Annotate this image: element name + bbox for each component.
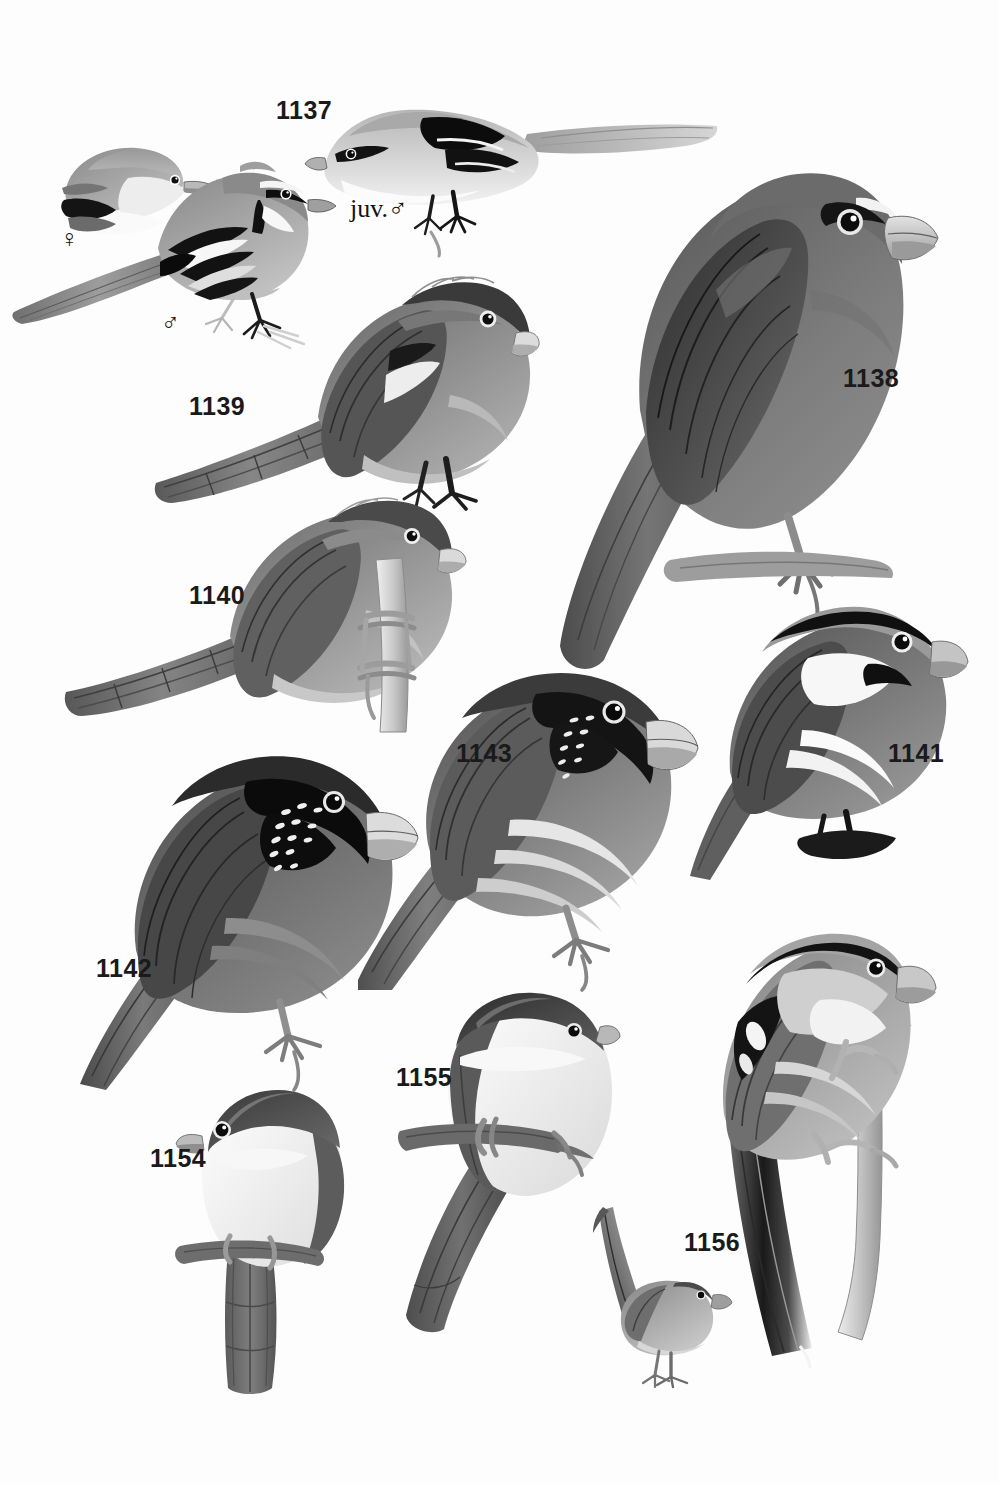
figure-1154-art	[170, 1060, 370, 1400]
label-1156: 1156	[684, 1230, 740, 1255]
figure-1156-small-art	[575, 1195, 735, 1390]
label-1140: 1140	[189, 583, 245, 608]
label-1139: 1139	[189, 394, 245, 419]
label-1138: 1138	[843, 366, 899, 391]
label-1137: 1137	[276, 98, 332, 123]
label-1155: 1155	[396, 1065, 452, 1090]
label-1141: 1141	[888, 741, 944, 766]
juvenile-male-label-1137: juv.♂	[350, 196, 408, 222]
figure-1154	[170, 1060, 370, 1400]
female-symbol-1137: ♀	[60, 226, 79, 251]
male-symbol-1137: ♂	[161, 310, 180, 335]
label-1142: 1142	[96, 956, 152, 981]
label-1143: 1143	[456, 741, 512, 766]
figure-1156-small	[575, 1195, 735, 1390]
label-1154: 1154	[150, 1146, 206, 1171]
bird-plate: 1137 1138 1139 1140 1141 1142 1143 1154 …	[0, 0, 999, 1485]
